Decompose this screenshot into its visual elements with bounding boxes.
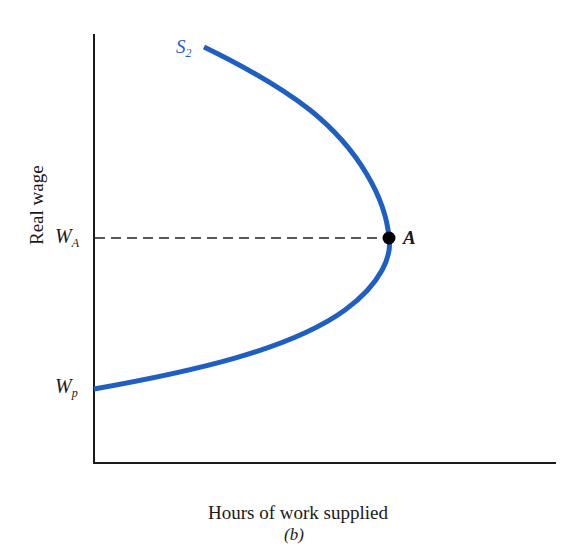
y-axis-label: Real wage bbox=[26, 165, 48, 245]
wp-sub: p bbox=[72, 386, 78, 400]
wp-main: W bbox=[55, 375, 72, 397]
curve-label-s2: S2 bbox=[176, 36, 192, 61]
wa-sub: A bbox=[72, 236, 79, 250]
point-a-label: A bbox=[403, 227, 416, 249]
y-tick-wp: Wp bbox=[55, 375, 78, 401]
supply-curve-s2 bbox=[94, 47, 389, 389]
s2-main: S bbox=[176, 36, 186, 57]
y-tick-wa: WA bbox=[55, 225, 79, 251]
wa-main: W bbox=[55, 225, 72, 247]
figure-caption: (b) bbox=[284, 525, 304, 545]
point-a-marker bbox=[383, 232, 396, 245]
chart-canvas bbox=[0, 0, 574, 553]
x-axis-label: Hours of work supplied bbox=[208, 502, 388, 524]
s2-sub: 2 bbox=[186, 46, 192, 60]
